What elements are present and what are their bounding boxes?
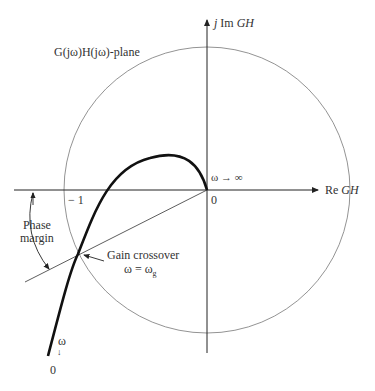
gain-crossover-eq: ω = ωg (124, 263, 157, 278)
omega-zero-label: 0 (50, 364, 56, 376)
omega-infinity-label: ω → ∞ (211, 172, 243, 183)
phase-margin-label: Phasemargin (20, 219, 54, 245)
omega-label: ω (58, 335, 66, 347)
real-axis-label: Re GH (325, 184, 359, 196)
gain-crossover-label: Gain crossover (107, 249, 179, 261)
origin-label: 0 (211, 194, 217, 206)
imag-axis-label: j Im GH (214, 17, 254, 29)
omega-down-arrow: ↓ (57, 348, 62, 357)
plane-label: G(jω)H(jω)-plane (54, 46, 140, 58)
gain-crossover-pointer (84, 255, 104, 261)
minus-one-label: − 1 (68, 194, 84, 206)
